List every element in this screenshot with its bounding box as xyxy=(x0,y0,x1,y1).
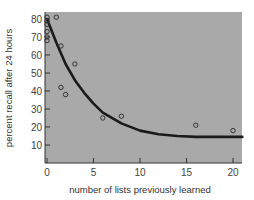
y-tick-label: 40 xyxy=(31,86,43,97)
y-tick-label: 80 xyxy=(31,14,43,25)
recall-chart: 05101520 1020304050607080 number of list… xyxy=(0,0,254,200)
y-tick-label: 50 xyxy=(31,68,43,79)
x-tick-label: 15 xyxy=(181,167,193,178)
x-tick-label: 0 xyxy=(44,167,50,178)
x-axis-label: number of lists previously learned xyxy=(69,184,211,195)
y-tick-label: 10 xyxy=(31,140,43,151)
x-tick-label: 5 xyxy=(91,167,97,178)
y-tick-label: 30 xyxy=(31,104,43,115)
x-tick-label: 10 xyxy=(134,167,146,178)
plot-area xyxy=(45,12,242,163)
y-tick-label: 60 xyxy=(31,50,43,61)
y-tick-label: 20 xyxy=(31,122,43,133)
x-tick-label: 20 xyxy=(227,167,239,178)
y-axis-label: percent recall after 24 hours xyxy=(3,29,14,148)
y-tick-label: 70 xyxy=(31,32,43,43)
